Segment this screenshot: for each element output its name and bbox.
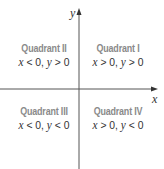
quadrant-title: Quadrant I bbox=[88, 41, 148, 55]
quadrant-title: Quadrant II bbox=[14, 41, 74, 55]
quadrant-i: Quadrant I x > 0, y > 0 bbox=[83, 41, 153, 69]
quadrant-ii: Quadrant II x < 0, y > 0 bbox=[9, 41, 79, 69]
quadrant-title: Quadrant IV bbox=[88, 104, 148, 118]
quadrant-condition: x > 0, y < 0 bbox=[87, 118, 150, 132]
quadrant-iv: Quadrant IV x > 0, y < 0 bbox=[83, 104, 153, 132]
quadrant-condition: x < 0, y < 0 bbox=[13, 118, 76, 132]
coordinate-axes bbox=[0, 0, 164, 169]
x-axis-arrow-icon bbox=[151, 87, 158, 92]
quadrant-condition: x > 0, y > 0 bbox=[87, 55, 150, 69]
y-axis-arrow-icon bbox=[77, 8, 82, 15]
quadrant-iii: Quadrant III x < 0, y < 0 bbox=[9, 104, 79, 132]
quadrant-condition: x < 0, y > 0 bbox=[13, 55, 76, 69]
quadrant-title: Quadrant III bbox=[14, 104, 74, 118]
y-axis-label: y bbox=[70, 7, 75, 19]
